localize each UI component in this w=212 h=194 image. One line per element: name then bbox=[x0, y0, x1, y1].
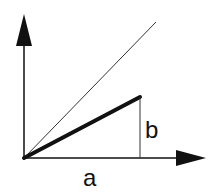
vector-diagram: b a bbox=[0, 0, 212, 194]
x-axis-arrowhead bbox=[176, 150, 206, 166]
reference-line bbox=[24, 22, 156, 158]
label-a: a bbox=[83, 164, 97, 191]
label-b: b bbox=[145, 116, 158, 143]
vector-line bbox=[24, 97, 140, 158]
y-axis-arrowhead bbox=[16, 14, 32, 46]
